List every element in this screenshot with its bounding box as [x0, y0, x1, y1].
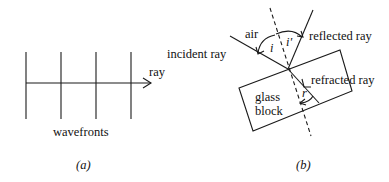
incident-ray-line — [230, 36, 288, 69]
reflected-ray-label: reflected ray — [309, 29, 373, 43]
angle-i-label: i — [270, 41, 274, 55]
air-label: air — [245, 27, 259, 41]
angle-i-arrowhead-icon — [256, 47, 264, 54]
angle-i-prime-label: i' — [286, 35, 292, 49]
incident-ray-label: incident ray — [167, 47, 227, 61]
ray-label: ray — [149, 65, 166, 79]
caption-a: (a) — [76, 158, 91, 172]
glass-label: glass — [255, 90, 280, 104]
refracted-ray-label: refracted ray — [311, 73, 375, 87]
panel-b: air incident ray reflected ray refracted… — [167, 8, 375, 172]
angle-r-label: r — [302, 86, 307, 100]
block-label: block — [255, 104, 284, 118]
wavefronts-label: wavefronts — [53, 125, 109, 139]
optics-diagram: ray wavefronts (a) air incident ray refl… — [0, 0, 389, 182]
panel-a: ray wavefronts (a) — [26, 52, 166, 172]
caption-b: (b) — [296, 158, 311, 172]
